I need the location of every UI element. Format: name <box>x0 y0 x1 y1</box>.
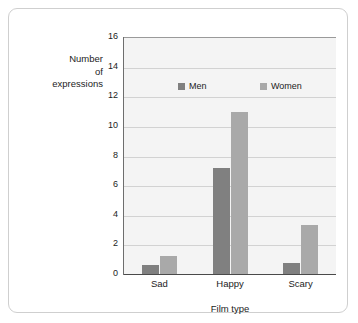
y-tick-label: 0 <box>96 268 118 278</box>
y-axis-title: Number of expressions <box>23 53 103 91</box>
y-tick-label: 12 <box>96 90 118 100</box>
y-tick-label: 8 <box>96 150 118 160</box>
y-axis-title-line-2: of <box>23 66 103 79</box>
y-axis-line <box>123 37 124 275</box>
plot-area <box>124 37 336 275</box>
y-tick-label: 10 <box>96 120 118 130</box>
y-tick-label: 14 <box>96 61 118 71</box>
bar-men-happy <box>213 168 230 275</box>
y-tick-label: 6 <box>96 179 118 189</box>
y-tick-label: 4 <box>96 209 118 219</box>
y-axis-title-line-3: expressions <box>23 78 103 91</box>
legend-swatch-men-icon <box>178 83 185 90</box>
y-tick-label: 16 <box>96 31 118 41</box>
gridline <box>124 97 336 98</box>
y-axis-title-line-1: Number <box>23 53 103 66</box>
legend-swatch-women-icon <box>260 83 267 90</box>
bar-women-scary <box>301 225 318 275</box>
bar-women-happy <box>231 112 248 275</box>
legend-label-women: Women <box>271 81 302 91</box>
y-tick-label: 2 <box>96 238 118 248</box>
bar-women-sad <box>160 256 177 275</box>
x-tick-label-sad: Sad <box>129 278 189 289</box>
legend-label-men: Men <box>189 81 207 91</box>
chart-frame: Number of expressions Men Women Film typ… <box>8 8 348 313</box>
gridline <box>124 68 336 69</box>
x-tick-label-happy: Happy <box>200 278 260 289</box>
x-tick-label-scary: Scary <box>271 278 331 289</box>
x-axis-title: Film type <box>124 303 336 314</box>
x-axis-line <box>124 274 336 275</box>
legend-entry-men[interactable]: Men <box>178 81 207 91</box>
legend-entry-women[interactable]: Women <box>260 81 302 91</box>
